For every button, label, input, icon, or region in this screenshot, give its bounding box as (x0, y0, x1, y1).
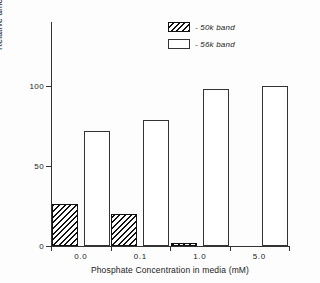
chart-legend: - 50k band - 56k band (168, 20, 235, 54)
x-tick-label: 0.1 (134, 252, 147, 261)
bar-50k-0.0 (52, 204, 78, 246)
legend-item-50k: - 50k band (168, 20, 235, 34)
bars-layer (51, 22, 289, 246)
y-axis-title: Relative amounts as % of total nucleocap… (0, 0, 4, 50)
x-tick-label: 0.0 (74, 252, 87, 261)
x-tick-mark (170, 246, 171, 251)
x-tick-mark (230, 246, 231, 251)
x-tick-mark (289, 246, 290, 251)
x-tick-label: 5.0 (253, 252, 266, 261)
y-tick-label: 50 (0, 162, 44, 171)
bar-56k-0.0 (84, 131, 110, 246)
open-swatch-icon (168, 39, 190, 49)
bar-chart-figure: 050100 0.00.11.05.0 Relative amounts as … (0, 0, 320, 283)
legend-label-56k: - 56k band (195, 40, 235, 49)
x-tick-label: 1.0 (193, 252, 206, 261)
hatched-swatch-icon (168, 22, 190, 32)
x-axis-title: Phosphate Concentration in media (mM) (51, 265, 289, 275)
legend-item-56k: - 56k band (168, 37, 235, 51)
y-tick-label: 0 (0, 242, 44, 251)
bar-56k-0.1 (143, 120, 169, 246)
x-tick-mark (111, 246, 112, 251)
bar-56k-5.0 (262, 86, 288, 246)
bar-50k-0.1 (111, 214, 137, 246)
bar-50k-1.0 (171, 243, 197, 246)
legend-label-50k: - 50k band (195, 23, 235, 32)
x-tick-mark (51, 246, 52, 251)
bar-56k-1.0 (203, 89, 229, 246)
y-tick-label: 100 (0, 82, 44, 91)
